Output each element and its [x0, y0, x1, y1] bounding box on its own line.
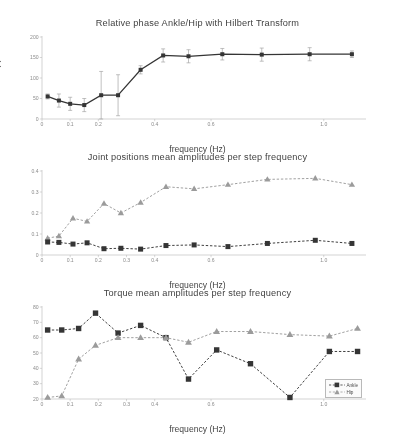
legend-item-hip: Hip [329, 389, 359, 395]
legend-item-ankle: Ankle [329, 382, 359, 388]
svg-text:50: 50 [33, 95, 39, 101]
svg-text:0.1: 0.1 [67, 401, 74, 407]
svg-text:0: 0 [41, 121, 44, 127]
panel-c-legend: Ankle Hip [325, 379, 363, 398]
panel-a-plot: 05010015020000.10.20.40.61.0 [38, 34, 368, 128]
svg-text:0.3: 0.3 [123, 257, 130, 263]
svg-text:0: 0 [36, 252, 39, 258]
legend-label-ankle: Ankle [347, 383, 359, 388]
svg-text:0.4: 0.4 [151, 257, 158, 263]
panel-a-title: Relative phase Ankle/Hip with Hilbert Tr… [0, 18, 395, 28]
svg-text:0: 0 [36, 116, 39, 122]
svg-text:1.0: 1.0 [320, 257, 327, 263]
svg-text:50: 50 [33, 350, 39, 356]
svg-text:20: 20 [33, 396, 39, 402]
svg-text:40: 40 [33, 365, 39, 371]
svg-text:0.6: 0.6 [207, 401, 214, 407]
svg-text:60: 60 [33, 334, 39, 340]
svg-text:1.0: 1.0 [320, 121, 327, 127]
svg-text:0.2: 0.2 [32, 210, 39, 216]
panel-c: Torque mean amplitudes per step frequenc… [0, 288, 395, 440]
svg-text:0.1: 0.1 [67, 121, 74, 127]
svg-text:0: 0 [41, 401, 44, 407]
legend-marker-square [329, 382, 345, 388]
svg-text:0.4: 0.4 [151, 121, 158, 127]
svg-text:200: 200 [30, 34, 39, 40]
svg-text:0.2: 0.2 [95, 121, 102, 127]
panel-a: Relative phase Ankle/Hip with Hilbert Tr… [0, 18, 395, 158]
svg-text:0.1: 0.1 [67, 257, 74, 263]
svg-text:0: 0 [41, 257, 44, 263]
panel-c-title: Torque mean amplitudes per step frequenc… [0, 288, 395, 298]
panel-b: Joint positions mean amplitudes per step… [0, 152, 395, 292]
svg-text:30: 30 [33, 380, 39, 386]
svg-text:80: 80 [33, 304, 39, 310]
panel-b-title: Joint positions mean amplitudes per step… [0, 152, 395, 162]
svg-text:0.4: 0.4 [151, 401, 158, 407]
panel-c-svg: 2030405060708000.10.20.30.40.61.0 [38, 304, 368, 408]
panel-b-svg: 00.10.20.30.400.10.20.30.40.61.0 [38, 168, 368, 264]
svg-text:70: 70 [33, 319, 39, 325]
legend-label-hip: Hip [347, 390, 354, 395]
svg-text:150: 150 [30, 54, 39, 60]
panel-b-plot: 00.10.20.30.400.10.20.30.40.61.0 [38, 168, 368, 264]
svg-text:100: 100 [30, 75, 39, 81]
panel-c-xlabel: frequency (Hz) [0, 424, 395, 434]
legend-marker-triangle [329, 389, 345, 395]
svg-text:0.1: 0.1 [32, 231, 39, 237]
svg-text:0.2: 0.2 [95, 401, 102, 407]
svg-text:0.2: 0.2 [95, 257, 102, 263]
panel-c-plot: 2030405060708000.10.20.30.40.61.0 Ankle … [38, 304, 368, 408]
figure-root: Relative phase Ankle/Hip with Hilbert Tr… [0, 0, 395, 446]
panel-a-ylabel: a. (°) [0, 59, 1, 79]
svg-text:0.3: 0.3 [123, 401, 130, 407]
svg-text:0.6: 0.6 [207, 121, 214, 127]
panel-a-svg: 05010015020000.10.20.40.61.0 [38, 34, 368, 128]
svg-text:0.3: 0.3 [32, 189, 39, 195]
svg-text:1.0: 1.0 [320, 401, 327, 407]
svg-text:0.6: 0.6 [207, 257, 214, 263]
svg-text:0.4: 0.4 [32, 168, 39, 174]
